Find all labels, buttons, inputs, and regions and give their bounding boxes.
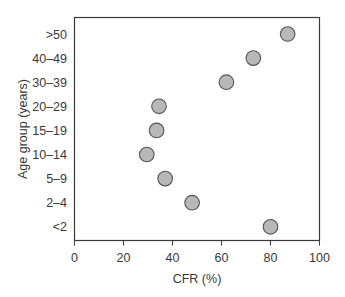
x-tick-label: 0 (71, 251, 78, 265)
data-point (280, 27, 295, 42)
y-tick-labels: >5040–4930–3920–2915–1910–145–92–4<2 (32, 28, 67, 235)
x-ticks: 020406080100 (71, 241, 330, 266)
x-tick-label: 80 (264, 251, 278, 265)
scatter-chart: >5040–4930–3920–2915–1910–145–92–4<2 020… (0, 0, 345, 297)
y-axis-label: Age group (years) (16, 79, 30, 179)
x-axis-label: CFR (%) (173, 272, 222, 286)
y-tick-label: 2–4 (46, 196, 67, 210)
data-point (139, 147, 154, 162)
data-point (185, 195, 200, 210)
y-tick-label: <2 (53, 220, 67, 234)
y-tick-label: 40–49 (32, 52, 67, 66)
y-tick-label: >50 (46, 28, 67, 42)
data-point (152, 99, 167, 114)
x-tick-label: 40 (166, 251, 180, 265)
data-point (158, 171, 173, 186)
x-tick-label: 100 (309, 251, 330, 265)
data-point (246, 51, 261, 66)
data-point (149, 123, 164, 138)
data-points (139, 27, 294, 234)
y-tick-label: 5–9 (46, 172, 67, 186)
y-tick-label: 30–39 (32, 76, 67, 90)
data-point (263, 220, 278, 235)
x-tick-label: 60 (215, 251, 229, 265)
y-tick-label: 10–14 (32, 148, 67, 162)
y-tick-label: 15–19 (32, 124, 67, 138)
data-point (219, 75, 234, 90)
y-tick-label: 20–29 (32, 100, 67, 114)
x-tick-label: 20 (117, 251, 131, 265)
